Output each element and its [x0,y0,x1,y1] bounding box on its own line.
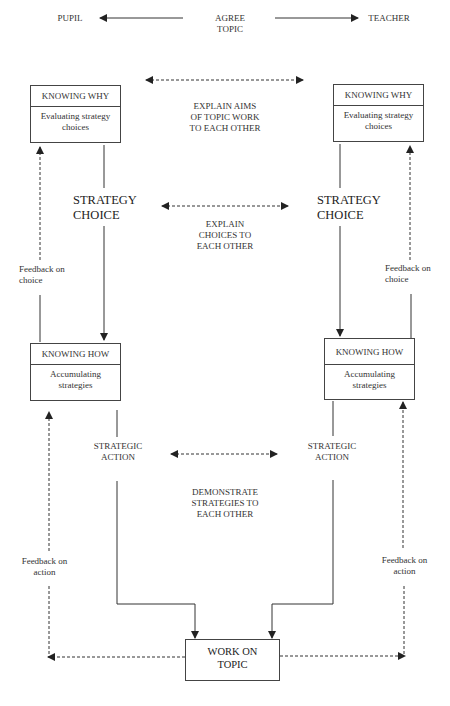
left-strategy-choice-label: STRATEGY CHOICE [73,193,153,223]
work-on-topic-box: WORK ON TOPIC [185,639,280,681]
agree-topic-label: AGREE TOPIC [205,13,255,35]
demonstrate-label: DEMONSTRATE STRATEGIES TO EACH OTHER [172,487,278,520]
left-knowing-why-title: KNOWING WHY [31,86,120,107]
left-feedback-choice-label: Feedback on choice [19,264,69,286]
right-knowing-how-title: KNOWING HOW [325,339,414,365]
teacher-label: TEACHER [364,13,414,24]
left-feedback-action-label: Feedback on action [17,556,72,578]
explain-aims-label: EXPLAIN AIMS OF TOPIC WORK TO EACH OTHER [172,101,278,134]
left-knowing-why-body: Evaluating strategy choices [31,107,120,133]
right-knowing-why-box: KNOWING WHY Evaluating strategy choices [333,84,424,142]
left-knowing-how-box: KNOWING HOW Accumulating strategies [30,343,121,401]
right-knowing-how-box: KNOWING HOW Accumulating strategies [324,338,415,400]
right-knowing-how-body: Accumulating strategies [325,365,414,391]
right-knowing-why-title: KNOWING WHY [334,85,423,106]
left-knowing-why-box: KNOWING WHY Evaluating strategy choices [30,85,121,143]
right-strategic-action-label: STRATEGIC ACTION [302,441,362,463]
right-knowing-why-body: Evaluating strategy choices [334,106,423,132]
right-strategy-choice-label: STRATEGY CHOICE [317,193,397,223]
left-knowing-how-title: KNOWING HOW [31,344,120,365]
explain-choices-label: EXPLAIN CHOICES TO EACH OTHER [172,219,278,252]
pupil-label: PUPIL [52,13,88,24]
left-knowing-how-body: Accumulating strategies [31,365,120,391]
left-strategic-action-label: STRATEGIC ACTION [88,441,148,463]
right-feedback-choice-label: Feedback on choice [385,263,440,285]
right-feedback-action-label: Feedback on action [377,555,432,577]
